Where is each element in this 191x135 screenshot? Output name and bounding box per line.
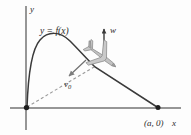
origin-point xyxy=(24,105,29,110)
function-curve-label: y = f(x) xyxy=(39,26,69,37)
initial-velocity-vector-group xyxy=(27,60,94,107)
x-axis-label: x xyxy=(171,118,176,128)
landing-point xyxy=(156,105,161,110)
landing-point-label: (a, 0) xyxy=(144,118,164,128)
y-axis-label: y xyxy=(29,4,34,14)
flight-path-figure: y x y = f(x) w v0 (a, 0) xyxy=(0,0,191,135)
initial-velocity-vector xyxy=(27,67,94,107)
wind-vector-label: w xyxy=(110,25,116,35)
figure-canvas: y x y = f(x) w v0 (a, 0) xyxy=(0,0,191,135)
velocity-subscript: 0 xyxy=(68,83,72,90)
